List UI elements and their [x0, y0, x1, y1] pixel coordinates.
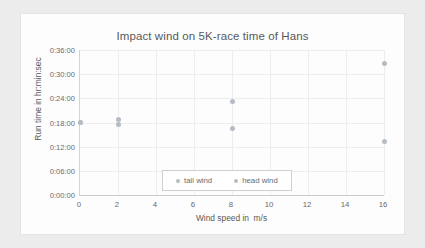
gridline-vertical	[384, 50, 385, 195]
chart-legend: tail windhead wind	[162, 170, 292, 191]
chart-card: Impact wind on 5K-race time of Hans 0:00…	[20, 13, 405, 235]
data-point	[382, 61, 387, 66]
chart-title: Impact wind on 5K-race time of Hans	[21, 30, 404, 42]
x-axis-tick-label: 2	[115, 200, 119, 209]
data-point	[382, 139, 387, 144]
x-axis-tick-label: 14	[341, 200, 350, 209]
gridline-vertical	[346, 50, 347, 195]
legend-entry[interactable]: tail wind	[176, 176, 212, 185]
x-axis-tick-label: 4	[153, 200, 157, 209]
gridline-vertical	[308, 50, 309, 195]
data-point	[116, 122, 121, 127]
data-point	[230, 126, 235, 131]
x-axis-tick-label: 8	[229, 200, 233, 209]
legend-label: head wind	[242, 176, 278, 185]
legend-marker-icon	[234, 179, 238, 183]
gridline-vertical	[156, 50, 157, 195]
x-axis-tick-label: 0	[77, 200, 81, 209]
data-point	[116, 117, 121, 122]
y-axis-tick-label: 0:06:00	[29, 166, 75, 175]
y-axis-title: Run time in hr:min:sec	[33, 34, 43, 164]
x-axis-tick-label: 12	[303, 200, 312, 209]
legend-entry[interactable]: head wind	[234, 176, 278, 185]
x-axis-tick-label: 6	[191, 200, 195, 209]
x-axis-tick-label: 10	[265, 200, 274, 209]
x-axis-tick-label: 16	[379, 200, 388, 209]
data-point	[230, 99, 235, 104]
y-axis-tick-labels: 0:00:000:06:000:12:000:18:000:24:000:30:…	[21, 50, 75, 196]
y-axis-tick-label: 0:00:00	[29, 191, 75, 200]
legend-marker-icon	[176, 179, 180, 183]
legend-label: tail wind	[184, 176, 212, 185]
data-point	[78, 120, 83, 125]
x-axis-title: Wind speed in m/s	[79, 213, 384, 223]
x-axis-tick-labels: 0246810121416	[79, 200, 384, 212]
